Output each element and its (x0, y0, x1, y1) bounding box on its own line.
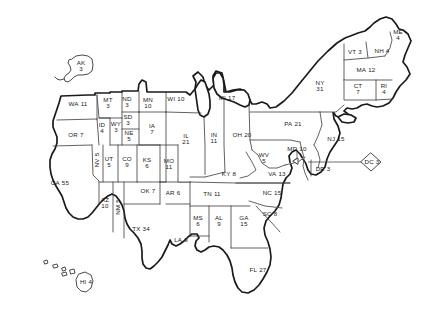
state-votes-ks: 6 (143, 163, 152, 169)
state-label-ak: AK3 (77, 60, 86, 73)
state-label-co: CO9 (122, 156, 132, 169)
state-votes-ak: 3 (77, 66, 86, 72)
state-votes-or: 7 (80, 131, 84, 138)
state-label-oh: OH20 (233, 132, 252, 138)
state-label-nd: ND3 (122, 96, 131, 109)
state-label-ne: NE5 (125, 130, 134, 143)
state-votes-va: 13 (278, 170, 285, 177)
state-label-wi: WI10 (167, 96, 184, 102)
state-label-mi: MI17 (219, 95, 236, 101)
state-label-dc: DC3 (365, 159, 380, 165)
state-votes-nj: 15 (337, 135, 344, 142)
state-label-al: AL9 (215, 215, 223, 228)
state-label-la: LA9 (174, 237, 188, 243)
state-votes-pa: 21 (294, 120, 301, 127)
state-votes-wi: 10 (177, 95, 184, 102)
state-votes-hi: 4 (88, 278, 92, 285)
state-votes-dc: 3 (376, 158, 380, 165)
state-abbr-wa: WA (69, 100, 79, 107)
state-abbr-nc: NC (263, 189, 272, 196)
state-votes-ky: 8 (233, 170, 237, 177)
state-label-ms: MS6 (193, 215, 203, 228)
state-label-nc: NC15 (263, 190, 282, 196)
state-abbr-ky: KY (222, 170, 231, 177)
state-label-ca: CA55 (51, 180, 69, 186)
state-votes-ms: 6 (193, 221, 203, 227)
state-votes-fl: 27 (259, 266, 266, 273)
state-votes-nm: 5 (114, 199, 121, 203)
state-label-mo: MO11 (164, 158, 174, 171)
state-label-wv: WV5 (259, 152, 269, 165)
state-label-md: MD10 (287, 146, 306, 152)
state-label-wy: WY3 (111, 121, 121, 134)
state-votes-id: 4 (99, 128, 106, 134)
state-label-ia: IA7 (149, 123, 155, 136)
state-label-vt: VT3 (348, 49, 362, 55)
state-votes-co: 9 (122, 162, 132, 168)
state-label-nv: NV5 (94, 153, 100, 168)
state-label-ma: MA12 (357, 67, 376, 73)
state-label-mn: MN10 (143, 97, 153, 110)
top-artifact-mark (137, 1, 144, 7)
state-votes-nd: 3 (122, 102, 131, 108)
state-votes-ny: 31 (316, 86, 325, 92)
state-votes-mt: 3 (103, 103, 112, 109)
state-label-ks: KS6 (143, 157, 152, 170)
state-abbr-vt: VT (348, 48, 356, 55)
state-abbr-wi: WI (167, 95, 175, 102)
state-votes-wy: 3 (111, 127, 121, 133)
state-votes-ct: 7 (354, 89, 363, 95)
state-votes-ia: 7 (149, 129, 155, 135)
state-votes-tx: 34 (143, 225, 150, 232)
state-label-il: IL21 (182, 133, 189, 146)
state-label-de: DE3 (316, 166, 331, 172)
state-label-ky: KY8 (222, 171, 236, 177)
state-label-hi: HI4 (80, 279, 92, 285)
state-label-tx: TX34 (132, 226, 150, 232)
state-votes-ma: 12 (368, 66, 375, 73)
state-label-ok: OK7 (141, 188, 156, 194)
state-abbr-nm: NM (114, 205, 121, 215)
state-votes-sc: 8 (274, 210, 278, 217)
state-label-va: VA13 (268, 171, 286, 177)
state-votes-md: 10 (299, 145, 306, 152)
state-label-ct: CT7 (354, 83, 363, 96)
state-label-or: OR7 (68, 132, 83, 138)
state-label-nj: NJ15 (327, 136, 344, 142)
state-label-nh: NH4 (375, 48, 390, 54)
state-votes-mn: 10 (143, 103, 153, 109)
state-votes-ar: 6 (177, 189, 181, 196)
state-label-nm: NM5 (115, 199, 121, 215)
state-label-ga: GA15 (239, 215, 248, 228)
state-abbr-la: LA (174, 236, 182, 243)
state-votes-ca: 55 (62, 179, 69, 186)
state-label-sc: SC8 (263, 211, 278, 217)
state-votes-tn: 11 (214, 190, 221, 197)
state-labels-layer: AK3HI4WA11OR7CA55ID4NV5UT5AZ10MT3WY3CO9N… (0, 0, 426, 328)
state-abbr-pa: PA (284, 120, 292, 127)
state-votes-sd: 3 (124, 120, 133, 126)
state-abbr-nv: NV (93, 158, 100, 167)
state-label-sd: SD3 (124, 114, 133, 127)
state-abbr-ma: MA (357, 66, 367, 73)
state-label-pa: PA21 (284, 121, 302, 127)
state-votes-ok: 7 (152, 187, 156, 194)
state-votes-de: 3 (327, 165, 331, 172)
state-abbr-tx: TX (132, 225, 140, 232)
state-abbr-fl: FL (250, 266, 258, 273)
state-label-me: ME4 (393, 29, 403, 42)
state-abbr-hi: HI (80, 278, 87, 285)
state-label-mt: MT3 (103, 97, 112, 110)
state-abbr-ok: OK (141, 187, 150, 194)
state-votes-ri: 4 (381, 89, 388, 95)
state-votes-ne: 5 (125, 136, 134, 142)
state-label-ny: NY31 (316, 80, 325, 93)
state-label-ut: UT5 (105, 156, 114, 169)
state-votes-mi: 17 (228, 94, 235, 101)
state-votes-nh: 4 (386, 47, 390, 54)
state-abbr-md: MD (287, 145, 297, 152)
state-abbr-dc: DC (365, 158, 374, 165)
state-abbr-oh: OH (233, 131, 243, 138)
state-votes-wa: 11 (81, 100, 88, 107)
state-votes-in: 11 (211, 138, 218, 144)
